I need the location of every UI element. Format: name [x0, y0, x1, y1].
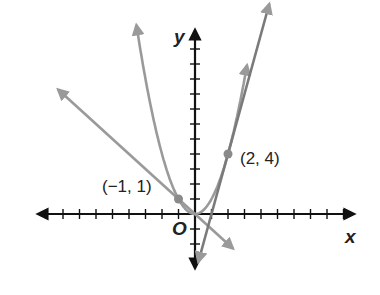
parabola-curve	[136, 25, 247, 214]
coordinate-plane	[0, 0, 380, 295]
line-y-neg-x	[58, 90, 233, 249]
origin-label: O	[172, 218, 187, 240]
axes	[38, 30, 354, 268]
y-axis-label: y	[174, 26, 185, 48]
point-marker	[224, 150, 233, 159]
x-axis-label: x	[345, 226, 356, 248]
point-label-neg1-1: (−1, 1)	[102, 177, 152, 197]
tangent-line	[198, 4, 269, 262]
point-marker	[174, 195, 183, 204]
highlighted-points	[174, 150, 233, 204]
series-layer	[58, 4, 269, 262]
point-label-2-4: (2, 4)	[240, 149, 280, 169]
